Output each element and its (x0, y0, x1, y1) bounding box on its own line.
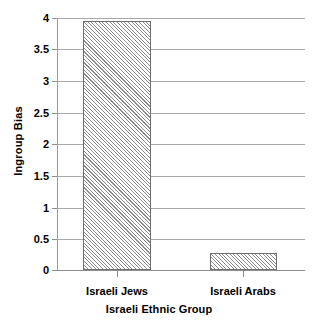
x-tick-mark (243, 271, 244, 277)
y-tick-label: 3.5 (0, 44, 49, 55)
bar-israeli-jews (83, 21, 151, 270)
y-tick-label: 1.5 (0, 171, 49, 182)
y-tick-label: 0.5 (0, 234, 49, 245)
bar-israeli-arabs (210, 253, 277, 270)
y-tick-label: 2.5 (0, 108, 49, 119)
gridline (57, 18, 305, 19)
x-tick-label-israeli-jews: Israeli Jews (57, 285, 177, 297)
y-tick-label: 2 (0, 139, 49, 150)
y-tick-label: 1 (0, 203, 49, 214)
x-axis-baseline (57, 270, 305, 271)
bar-chart: Ingroup Bias 4 3.5 3 2.5 2 1.5 1 0.5 0 I… (0, 0, 318, 333)
y-tick-label: 0 (0, 265, 49, 276)
y-tick-label: 3 (0, 76, 49, 87)
x-tick-mark (117, 271, 118, 277)
x-axis-title: Israeli Ethnic Group (0, 303, 318, 315)
y-tick-label: 4 (0, 13, 49, 24)
plot-area (57, 18, 305, 270)
x-tick-label-israeli-arabs: Israeli Arabs (183, 285, 303, 297)
